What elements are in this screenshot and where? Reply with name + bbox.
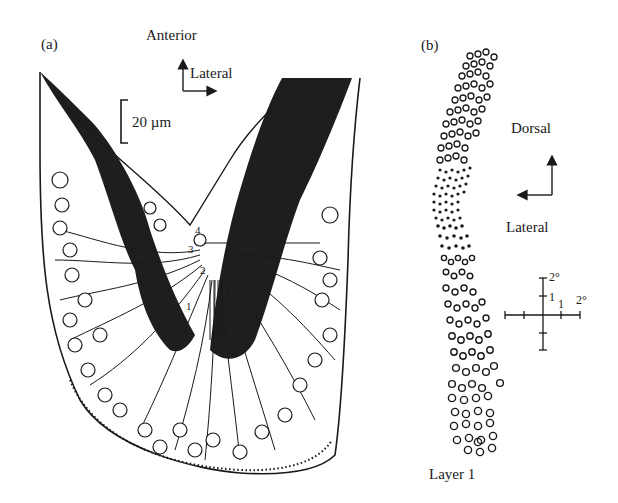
layer-marker-1: 1 bbox=[186, 300, 192, 312]
layer-marker-2: 2 bbox=[200, 264, 206, 276]
degree-label-right: 2° bbox=[576, 294, 587, 306]
orientation-lateral-b-label: Lateral bbox=[506, 220, 548, 235]
orientation-arrows-a bbox=[183, 64, 212, 91]
panel-b-label: (b) bbox=[421, 38, 439, 53]
degree-label-inner-vertical: 1 bbox=[549, 291, 555, 303]
orientation-arrows-b bbox=[522, 160, 552, 195]
degree-label-inner-horizontal: 1 bbox=[558, 298, 564, 310]
layer-marker-3: 3 bbox=[188, 243, 194, 255]
open-circle-cluster-top bbox=[437, 49, 497, 163]
degree-label-top: 2° bbox=[549, 271, 560, 283]
open-circle-cluster-bottom bbox=[441, 255, 503, 455]
layer-caption: Layer 1 bbox=[429, 467, 475, 482]
fiber-bundle bbox=[55, 230, 340, 460]
degree-scale-cross bbox=[505, 278, 580, 350]
layer-marker-4: 4 bbox=[195, 224, 201, 236]
scale-bar bbox=[121, 100, 128, 143]
dense-dot-cluster-middle bbox=[432, 166, 471, 249]
figure-canvas: 4 3 2 1 bbox=[0, 0, 618, 503]
orientation-dorsal-label: Dorsal bbox=[511, 121, 551, 136]
